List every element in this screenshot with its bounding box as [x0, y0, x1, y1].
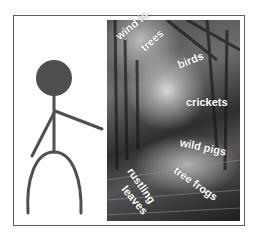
stick-figure-head	[36, 60, 72, 96]
stick-figure-pointing-arm	[55, 111, 102, 129]
stick-figure-left-arm	[32, 113, 54, 156]
stick-figure-legs	[28, 152, 81, 213]
sound-label-crickets: crickets	[186, 96, 228, 108]
